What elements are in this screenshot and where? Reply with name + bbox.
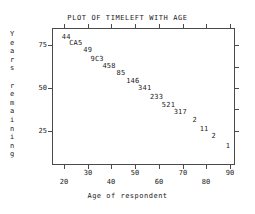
x-axis-tick-mark bbox=[64, 24, 65, 28]
y-axis-title: Years remaining bbox=[6, 30, 18, 159]
x-axis-tick-mark bbox=[64, 165, 65, 169]
chart-canvas: PLOT OF TIMELEFT WITH AGE Years remainin… bbox=[0, 0, 255, 214]
y-axis-tick-mark-right bbox=[235, 88, 239, 89]
data-point-label: 341 bbox=[138, 84, 151, 92]
y-axis-title-char: r bbox=[6, 82, 18, 91]
y-axis-title-char: a bbox=[6, 107, 18, 116]
x-axis-tick-label: 40 bbox=[101, 178, 121, 186]
x-axis-tick-label: 90 bbox=[220, 169, 240, 177]
x-axis-tick-mark bbox=[111, 24, 112, 28]
x-axis-tick-mark bbox=[88, 24, 89, 28]
x-axis-tick-mark bbox=[206, 165, 207, 169]
y-axis-tick-label: 75 bbox=[29, 41, 47, 49]
y-axis-tick-mark-right bbox=[235, 67, 239, 68]
y-axis-title-char: s bbox=[6, 64, 18, 73]
data-point-label: 458 bbox=[102, 62, 115, 70]
x-axis-tick-mark bbox=[135, 24, 136, 28]
data-point-label: CA5 bbox=[69, 39, 82, 47]
x-axis-tick-mark bbox=[230, 24, 231, 28]
data-point-label: 85 bbox=[117, 69, 126, 77]
y-axis-title-char: e bbox=[6, 39, 18, 48]
x-axis-tick-label: 50 bbox=[125, 169, 145, 177]
x-axis-title: Age of respondent bbox=[0, 192, 255, 200]
y-axis-tick-mark-right bbox=[235, 131, 239, 132]
y-axis-tick-mark bbox=[48, 131, 52, 132]
y-axis-title-char: n bbox=[6, 142, 18, 151]
data-point-label: 317 bbox=[174, 108, 187, 116]
y-axis-title-char: Y bbox=[6, 30, 18, 39]
y-axis-title-char: i bbox=[6, 116, 18, 125]
data-point-label: 233 bbox=[150, 93, 163, 101]
data-point-label: 1 bbox=[226, 142, 230, 150]
y-axis-title-char: m bbox=[6, 99, 18, 108]
x-axis-tick-label: 20 bbox=[54, 178, 74, 186]
y-axis-tick-label: 50 bbox=[29, 84, 47, 92]
x-axis-tick-label: 30 bbox=[78, 169, 98, 177]
data-point-label: 49 bbox=[83, 46, 92, 54]
y-axis-tick-mark-right bbox=[235, 45, 239, 46]
x-axis-tick-label: 70 bbox=[173, 169, 193, 177]
y-axis-tick-mark bbox=[48, 88, 52, 89]
y-axis-tick-mark bbox=[48, 45, 52, 46]
x-axis-tick-mark bbox=[183, 24, 184, 28]
plot-area bbox=[52, 28, 235, 165]
y-axis-title-char: i bbox=[6, 133, 18, 142]
y-axis-tick-mark-right bbox=[235, 109, 239, 110]
x-axis-tick-label: 80 bbox=[196, 178, 216, 186]
data-point-label: 2 bbox=[211, 132, 215, 140]
x-axis-tick-mark bbox=[159, 165, 160, 169]
y-axis-title-char: a bbox=[6, 47, 18, 56]
data-point-label: 2 bbox=[192, 116, 196, 124]
y-axis-title-char: n bbox=[6, 125, 18, 134]
y-axis-tick-label: 25 bbox=[29, 127, 47, 135]
data-point-label: 11 bbox=[200, 125, 209, 133]
chart-title: PLOT OF TIMELEFT WITH AGE bbox=[0, 14, 255, 22]
x-axis-tick-mark bbox=[159, 24, 160, 28]
x-axis-tick-mark bbox=[111, 165, 112, 169]
x-axis-tick-mark bbox=[206, 24, 207, 28]
y-axis-title-char: r bbox=[6, 56, 18, 65]
y-axis-title-char: g bbox=[6, 150, 18, 159]
x-axis-tick-label: 60 bbox=[149, 178, 169, 186]
y-axis-title-char: e bbox=[6, 90, 18, 99]
